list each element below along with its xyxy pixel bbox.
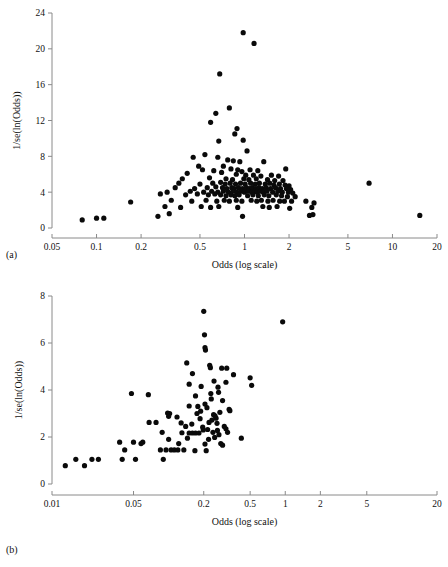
y-tick-label: 4 (40, 385, 45, 395)
data-point (241, 138, 246, 143)
data-point (166, 414, 171, 419)
data-point (120, 457, 125, 462)
y-axis-title: 1/se(ln(Odds)) (11, 91, 23, 149)
data-point (223, 193, 228, 198)
data-point (235, 205, 240, 210)
data-point (166, 437, 171, 442)
data-point (220, 443, 225, 448)
data-point (128, 199, 133, 204)
data-point (180, 176, 185, 181)
data-point (167, 211, 172, 216)
data-point (215, 428, 220, 433)
data-point (227, 199, 232, 204)
data-point (162, 204, 167, 209)
data-point (219, 170, 224, 175)
data-point (254, 199, 259, 204)
data-point (209, 396, 214, 401)
data-point (258, 173, 263, 178)
data-point (216, 390, 221, 395)
data-point (176, 181, 181, 186)
data-point (244, 148, 249, 153)
y-tick-label: 6 (40, 338, 45, 348)
y-tick-label: 24 (36, 8, 46, 18)
data-point (161, 457, 166, 462)
data-point (203, 347, 208, 352)
data-point (174, 414, 179, 419)
y-tick-label: 20 (36, 44, 46, 54)
panel-a: 048121620241/se(ln(Odds))0.050.10.20.512… (0, 0, 448, 280)
data-point (195, 191, 200, 196)
data-point (228, 166, 233, 171)
data-point (274, 204, 279, 209)
data-point (223, 176, 228, 181)
data-point (173, 185, 178, 190)
data-point (206, 192, 211, 197)
data-point (262, 192, 267, 197)
data-point (163, 447, 168, 452)
data-point (160, 430, 165, 435)
data-point (211, 168, 216, 173)
data-point (269, 173, 274, 178)
data-point (225, 430, 230, 435)
data-point (146, 392, 151, 397)
data-point (223, 380, 228, 385)
x-tick-label: 0.2 (135, 242, 147, 252)
data-point (213, 111, 218, 116)
data-point (205, 185, 210, 190)
data-point (201, 309, 206, 314)
data-point (206, 420, 211, 425)
data-point (176, 441, 181, 446)
data-point (195, 404, 200, 409)
data-point (206, 437, 211, 442)
data-point (287, 206, 292, 211)
x-tick-label: 20 (432, 242, 442, 252)
x-tick-label: 20 (432, 499, 442, 509)
data-point (247, 167, 252, 172)
data-point (192, 448, 197, 453)
data-point (199, 384, 204, 389)
data-point (261, 159, 266, 164)
data-point (256, 193, 261, 198)
y-tick-label: 4 (40, 188, 45, 198)
data-point (220, 398, 225, 403)
data-point (187, 403, 192, 408)
data-point (227, 105, 232, 110)
data-point (210, 430, 215, 435)
data-point (89, 457, 94, 462)
data-point (277, 182, 282, 187)
data-point (309, 205, 314, 210)
data-point (224, 366, 229, 371)
data-point (310, 212, 315, 217)
x-tick-label: 0.1 (91, 242, 103, 252)
data-point (240, 214, 245, 219)
y-tick-label: 8 (40, 152, 45, 162)
data-point (190, 371, 195, 376)
data-point (189, 421, 194, 426)
x-tick-label: 1 (283, 499, 288, 509)
x-tick-label: 10 (388, 242, 398, 252)
data-point (185, 171, 190, 176)
funnel-plot-figure: 048121620241/se(ln(Odds))0.050.10.20.512… (0, 0, 448, 567)
data-point (94, 216, 99, 221)
data-point (276, 173, 281, 178)
data-point (198, 409, 203, 414)
data-point (286, 190, 291, 195)
data-point (178, 205, 183, 210)
data-point (248, 181, 253, 186)
data-point (200, 167, 205, 172)
data-point (208, 205, 213, 210)
x-tick-label: 5 (364, 499, 369, 509)
data-point (241, 176, 246, 181)
data-point (265, 199, 270, 204)
data-point (197, 182, 202, 187)
data-point (63, 463, 68, 468)
data-point (204, 405, 209, 410)
data-point (201, 190, 206, 195)
data-point (280, 319, 285, 324)
data-point (153, 420, 158, 425)
data-point (191, 155, 196, 160)
scatter-plot-b: 024681/se(ln(Odds))0.010.050.20.512520Od… (0, 280, 448, 567)
data-point (96, 457, 101, 462)
x-tick-label: 2 (318, 499, 323, 509)
data-point (196, 430, 201, 435)
